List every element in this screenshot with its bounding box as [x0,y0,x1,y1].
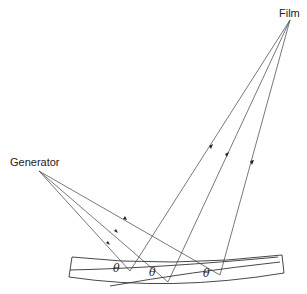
bent-crystal [69,255,284,286]
arrow-icon [114,229,118,233]
arrow-icon [106,241,110,245]
reflected-rays [130,20,290,282]
crystal-right-edge [282,255,284,273]
arrow-icon [209,144,213,149]
theta-label-1: θ [113,262,120,275]
crystal-top-edge [72,255,282,262]
incident-ray-3 [39,171,220,275]
crystal-bottom-edge [69,273,284,284]
incident-ray-1 [39,171,130,271]
incident-rays [39,171,220,282]
arrow-icon [225,152,229,157]
crystal-left-edge [69,257,72,277]
theta-label-3: θ [203,267,210,280]
generator-label: Generator [10,156,60,168]
xray-crystal-diffraction-diagram: Film Generator θ θ θ [0,0,307,294]
theta-label-2: θ [149,266,156,279]
film-label: Film [279,7,300,19]
